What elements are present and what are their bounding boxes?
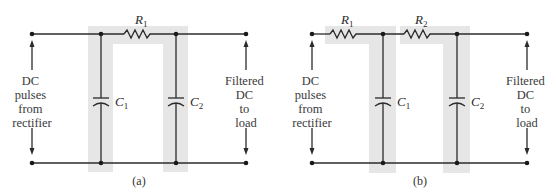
output-label: Filtered DC to load	[506, 74, 548, 130]
section2-highlight-band	[400, 26, 470, 173]
junction-node	[99, 161, 104, 166]
panel-b: R1 R2 C1 C2 DC pulses from rectifier Fil…	[292, 12, 548, 188]
label-r2: R2	[414, 12, 427, 29]
junction-node	[455, 161, 460, 166]
input-terminal-top	[30, 32, 35, 37]
input-label: DC pulses from rectifier	[292, 74, 332, 130]
junction-node	[381, 161, 386, 166]
filter-circuits-figure: R1 C1 C2 DC pulses from rectifier Filter…	[0, 0, 557, 196]
junction-node	[99, 32, 104, 37]
section1-highlight-band	[325, 26, 396, 173]
label-c1: C1	[115, 94, 128, 111]
pi-highlight-band	[88, 26, 188, 172]
junction-node	[174, 161, 179, 166]
label-c2: C2	[190, 94, 203, 111]
output-terminal-top	[244, 32, 249, 37]
input-terminal-bottom	[30, 161, 35, 166]
input-terminal-top	[310, 32, 315, 37]
output-terminal-bottom	[244, 161, 249, 166]
output-terminal-top	[525, 32, 530, 37]
input-terminal-bottom	[310, 161, 315, 166]
input-label: DC pulses from rectifier	[12, 74, 52, 130]
label-r1: R1	[340, 12, 353, 29]
caption-a: (a)	[132, 174, 145, 188]
junction-node	[381, 32, 386, 37]
label-c2: C2	[471, 94, 484, 111]
output-terminal-bottom	[525, 161, 530, 166]
label-r1: R1	[134, 12, 147, 29]
panel-a: R1 C1 C2 DC pulses from rectifier Filter…	[12, 12, 267, 188]
junction-node	[455, 32, 460, 37]
output-label: Filtered DC to load	[225, 74, 267, 130]
caption-b: (b)	[413, 174, 427, 188]
junction-node	[174, 32, 179, 37]
label-c1: C1	[397, 94, 410, 111]
